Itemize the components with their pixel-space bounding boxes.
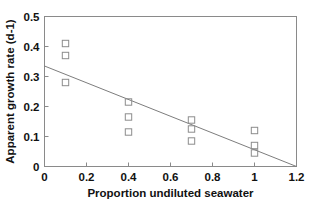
x-tick-label: 0.6 — [163, 171, 179, 183]
x-axis-title: Proportion undiluted seawater — [87, 187, 254, 199]
plot-frame — [45, 17, 297, 167]
x-tick-label: 0 — [41, 171, 47, 183]
regression-line — [45, 66, 297, 167]
y-tick-label: 0.4 — [24, 41, 41, 53]
x-tick-label: 0.2 — [79, 171, 95, 183]
data-point-marker — [125, 114, 131, 120]
data-point-marker — [125, 129, 131, 135]
x-tick-label: 1 — [251, 171, 258, 183]
data-point-marker — [251, 127, 257, 133]
x-tick-label: 0.8 — [205, 171, 222, 183]
y-axis-title: Apparent growth rate (d-1) — [4, 19, 16, 164]
y-tick-label: 0.3 — [24, 71, 40, 83]
y-tick-label: 0.5 — [24, 11, 41, 23]
data-point-marker — [62, 79, 68, 85]
scatter-plot: 00.20.40.60.811.200.10.20.30.40.5Proport… — [0, 0, 313, 207]
y-tick-label: 0.1 — [24, 131, 41, 143]
data-point-marker — [188, 117, 194, 123]
data-point-marker — [251, 142, 257, 148]
chart-figure: 00.20.40.60.811.200.10.20.30.40.5Proport… — [0, 0, 313, 207]
data-point-marker — [62, 52, 68, 58]
x-tick-label: 1.2 — [289, 171, 305, 183]
data-point-marker — [188, 138, 194, 144]
x-tick-label: 0.4 — [121, 171, 138, 183]
y-tick-label: 0.2 — [24, 101, 40, 113]
data-point-marker — [188, 126, 194, 132]
data-point-marker — [62, 40, 68, 46]
y-tick-label: 0 — [33, 161, 39, 173]
